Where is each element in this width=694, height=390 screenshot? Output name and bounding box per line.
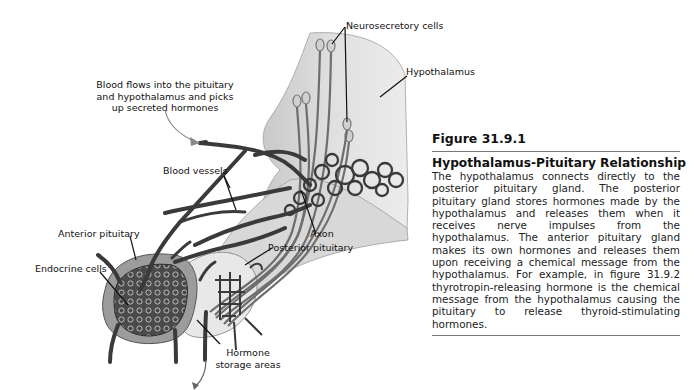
- blood-inflow-arrow: [165, 110, 196, 142]
- diagram-illustration: [0, 0, 440, 390]
- label-blood-flow-line1: Blood flows into the pituitary: [92, 79, 238, 91]
- label-neurosecretory-cells: Neurosecretory cells: [346, 20, 443, 32]
- figure-caption: Figure 31.9.1 Hypothalamus-Pituitary Rel…: [432, 131, 680, 340]
- figure-title: Hypothalamus-Pituitary Relationship: [432, 156, 680, 170]
- label-hormone-storage-line1: Hormone: [208, 347, 288, 359]
- figure-number: Figure 31.9.1: [432, 131, 680, 147]
- blood-outflow-arrow: [196, 360, 206, 386]
- label-blood-flow-line3: up secreted hormones: [92, 102, 238, 114]
- label-hormone-storage-line2: storage areas: [208, 359, 288, 371]
- label-anterior-pituitary: Anterior pituitary: [58, 228, 140, 240]
- label-posterior-pituitary: Posterior pituitary: [268, 242, 353, 254]
- blood-inflow-arrowhead: [190, 137, 200, 146]
- label-blood-vessels: Blood vessels: [163, 165, 228, 177]
- label-blood-flow: Blood flows into the pituitary and hypot…: [92, 79, 238, 114]
- label-hypothalamus: Hypothalamus: [406, 66, 475, 78]
- hypothalamus-pituitary-diagram: Neurosecretory cells Hypothalamus Blood …: [0, 0, 440, 390]
- caption-divider-top: [432, 151, 680, 152]
- label-axon: Axon: [310, 228, 334, 240]
- figure-body-text: The hypothalamus connects directly to th…: [432, 170, 680, 330]
- caption-divider-bottom: [432, 335, 680, 336]
- label-endocrine-cells: Endocrine cells: [35, 263, 107, 275]
- endocrine-cell-cluster: [114, 264, 187, 336]
- label-blood-flow-line2: and hypothalamus and picks: [92, 91, 238, 103]
- label-hormone-storage: Hormone storage areas: [208, 347, 288, 370]
